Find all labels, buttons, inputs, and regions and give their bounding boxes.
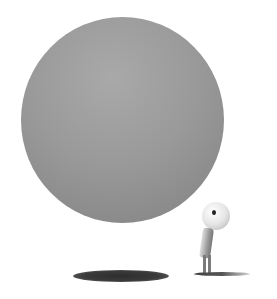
figure-body [199, 227, 214, 258]
figure-eye [212, 210, 216, 215]
cropped-caption [40, 293, 240, 299]
small-figure [192, 200, 252, 280]
illustration-scene [0, 0, 277, 299]
floating-sphere [21, 17, 224, 223]
figure-right-leg [208, 255, 211, 273]
figure-shadow [194, 272, 250, 276]
figure-left-leg [203, 255, 206, 273]
figure-head [202, 202, 230, 230]
sphere-shadow [73, 270, 169, 282]
